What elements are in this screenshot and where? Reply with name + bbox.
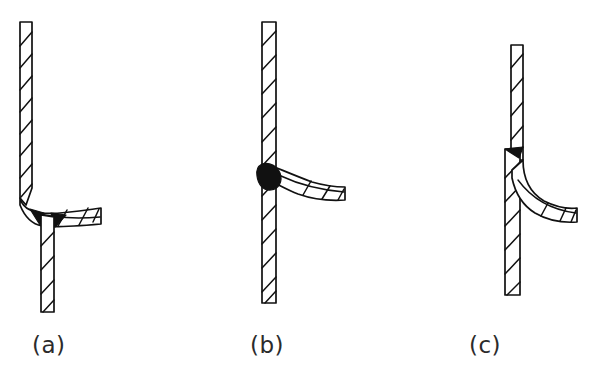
panel-a-caption: (a)	[0, 332, 199, 358]
figure-panel-b: (b)	[199, 0, 398, 388]
panel-b-caption: (b)	[199, 332, 398, 358]
figure-panel-a: (a)	[0, 0, 199, 388]
vertical-bar-lower	[41, 215, 54, 312]
curved-flange	[512, 160, 577, 222]
panel-a-drawing	[0, 0, 199, 330]
vertical-bar-upper	[511, 45, 523, 160]
panel-b-drawing	[199, 0, 398, 330]
vertical-bar-upper	[20, 22, 32, 205]
figure-panel-c: (c)	[399, 0, 598, 388]
panel-c-caption: (c)	[399, 332, 598, 358]
figure-sheet: (a)	[0, 0, 598, 388]
vertical-bar	[262, 22, 276, 303]
panel-c-drawing	[399, 0, 598, 330]
